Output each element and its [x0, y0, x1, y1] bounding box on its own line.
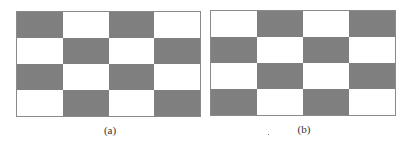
cell-b-r1-c3-light — [349, 37, 395, 63]
cell-a-r2-c0-dark — [17, 64, 63, 90]
cell-a-r2-c2-dark — [109, 64, 155, 90]
cell-a-r3-c1-dark — [63, 90, 109, 116]
cell-a-r1-c2-light — [109, 38, 155, 64]
cell-a-r3-c3-dark — [154, 90, 200, 116]
cell-a-r1-c3-dark — [154, 38, 200, 64]
cell-b-r3-c2-dark — [303, 89, 349, 115]
cell-a-r0-c0-dark — [17, 12, 63, 38]
cell-b-r1-c0-dark — [211, 37, 257, 63]
cell-b-r2-c3-dark — [349, 63, 395, 89]
cell-b-r2-c0-light — [211, 63, 257, 89]
checkerboard-panel-b — [210, 10, 396, 116]
cell-a-r0-c2-dark — [109, 12, 155, 38]
cell-b-r0-c3-dark — [349, 11, 395, 37]
cell-a-r2-c3-light — [154, 64, 200, 90]
cell-b-r1-c1-light — [257, 37, 303, 63]
cell-a-r0-c1-light — [63, 12, 109, 38]
cell-a-r3-c0-light — [17, 90, 63, 116]
cell-a-r3-c2-light — [109, 90, 155, 116]
cell-a-r2-c1-light — [63, 64, 109, 90]
cell-b-r0-c0-light — [211, 11, 257, 37]
cell-b-r3-c3-light — [349, 89, 395, 115]
cell-b-r0-c2-light — [303, 11, 349, 37]
cell-b-r3-c0-dark — [211, 89, 257, 115]
cell-b-r2-c2-light — [303, 63, 349, 89]
cell-a-r1-c0-light — [17, 38, 63, 64]
cell-b-r3-c1-light — [257, 89, 303, 115]
stray-dot — [268, 134, 269, 135]
checkerboard-panel-a — [16, 11, 201, 117]
cell-b-r0-c1-dark — [257, 11, 303, 37]
cell-b-r2-c1-dark — [257, 63, 303, 89]
panel-label-b: (b) — [284, 123, 324, 135]
cell-a-r1-c1-dark — [63, 38, 109, 64]
panel-label-a: (a) — [90, 124, 130, 136]
cell-a-r0-c3-light — [154, 12, 200, 38]
cell-b-r1-c2-dark — [303, 37, 349, 63]
